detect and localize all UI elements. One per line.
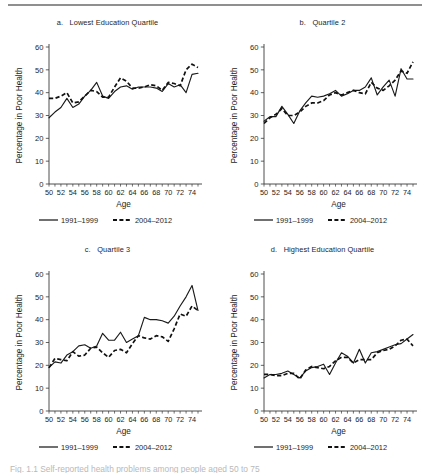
chart-svg-a: 010203040506050525456586062646668707274A… xyxy=(0,8,215,235)
legend-label-1: 1991–1999 xyxy=(61,216,98,225)
x-tick-label: 62 xyxy=(116,188,124,197)
chart-panel-d: d. Highest Education Quartile 0102030405… xyxy=(215,235,430,462)
legend-label-1: 1991–1999 xyxy=(276,216,313,225)
x-tick-label: 68 xyxy=(367,188,375,197)
x-tick-label: 68 xyxy=(367,415,375,424)
x-tick-label: 50 xyxy=(260,415,268,424)
x-tick-label: 58 xyxy=(308,188,316,197)
y-axis-title: Percentage in Poor Health xyxy=(230,294,239,390)
figure-caption: Fig. 1.1 Self-reported health problems a… xyxy=(10,464,422,473)
x-tick-label: 60 xyxy=(320,188,328,197)
x-tick-label: 58 xyxy=(93,188,101,197)
x-tick-label: 70 xyxy=(164,188,172,197)
x-tick-label: 54 xyxy=(284,415,292,424)
x-axis-title: Age xyxy=(331,200,346,209)
x-tick-label: 64 xyxy=(343,415,351,424)
x-tick-label: 68 xyxy=(152,415,160,424)
chart-svg-c: 010203040506050525456586062646668707274A… xyxy=(0,235,215,462)
x-tick-label: 62 xyxy=(116,415,124,424)
x-axis-title: Age xyxy=(331,427,346,436)
panel-grid: a. Lowest Education Quartile 01020304050… xyxy=(0,8,430,463)
y-tick-label: 0 xyxy=(39,407,43,416)
x-tick-label: 60 xyxy=(105,188,113,197)
x-tick-label: 66 xyxy=(140,415,148,424)
chart-svg-b: 010203040506050525456586062646668707274A… xyxy=(215,8,430,235)
x-tick-label: 54 xyxy=(69,188,77,197)
chart-panel-c: c. Quartile 3 01020304050605052545658606… xyxy=(0,235,215,462)
x-tick-label: 58 xyxy=(93,415,101,424)
x-tick-label: 56 xyxy=(296,188,304,197)
x-tick-label: 62 xyxy=(331,415,339,424)
x-tick-label: 50 xyxy=(45,415,53,424)
x-tick-label: 66 xyxy=(355,415,363,424)
legend-label-2: 2004–2012 xyxy=(350,216,387,225)
x-tick-label: 62 xyxy=(331,188,339,197)
x-tick-label: 60 xyxy=(105,415,113,424)
y-tick-label: 40 xyxy=(250,315,258,324)
x-tick-label: 50 xyxy=(45,188,53,197)
x-tick-label: 74 xyxy=(403,188,411,197)
header-rule xyxy=(8,4,422,6)
y-axis-title: Percentage in Poor Health xyxy=(15,67,24,163)
x-tick-label: 52 xyxy=(57,188,65,197)
y-tick-label: 10 xyxy=(35,157,43,166)
x-tick-label: 74 xyxy=(403,415,411,424)
x-tick-label: 52 xyxy=(272,188,280,197)
x-tick-label: 56 xyxy=(296,415,304,424)
y-tick-label: 30 xyxy=(35,111,43,120)
y-axis-title: Percentage in Poor Health xyxy=(230,67,239,163)
y-tick-label: 50 xyxy=(250,66,258,75)
y-tick-label: 0 xyxy=(254,407,258,416)
y-tick-label: 30 xyxy=(35,338,43,347)
y-tick-label: 20 xyxy=(250,134,258,143)
series-line-1 xyxy=(264,69,413,124)
y-tick-label: 60 xyxy=(250,43,258,52)
legend-label-2: 2004–2012 xyxy=(135,216,172,225)
y-tick-label: 10 xyxy=(250,157,258,166)
x-tick-label: 56 xyxy=(81,188,89,197)
y-tick-label: 60 xyxy=(35,270,43,279)
x-tick-label: 54 xyxy=(284,188,292,197)
x-tick-label: 66 xyxy=(355,188,363,197)
x-tick-label: 74 xyxy=(188,188,196,197)
x-tick-label: 56 xyxy=(81,415,89,424)
x-tick-label: 66 xyxy=(140,188,148,197)
y-axis-title: Percentage in Poor Health xyxy=(15,294,24,390)
y-tick-label: 60 xyxy=(250,270,258,279)
x-tick-label: 54 xyxy=(69,415,77,424)
x-tick-label: 52 xyxy=(57,415,65,424)
series-line-2 xyxy=(49,64,198,103)
chart-panel-a: a. Lowest Education Quartile 01020304050… xyxy=(0,8,215,235)
chart-panel-b: b. Quartile 2 01020304050605052545658606… xyxy=(215,8,430,235)
y-tick-label: 40 xyxy=(35,315,43,324)
chart-svg-d: 010203040506050525456586062646668707274A… xyxy=(215,235,430,462)
y-tick-label: 20 xyxy=(35,134,43,143)
figure-page: a. Lowest Education Quartile 01020304050… xyxy=(0,0,430,473)
x-axis-title: Age xyxy=(116,427,131,436)
y-tick-label: 50 xyxy=(35,293,43,302)
y-tick-label: 40 xyxy=(250,88,258,97)
y-tick-label: 10 xyxy=(35,384,43,393)
x-tick-label: 70 xyxy=(164,415,172,424)
y-tick-label: 0 xyxy=(39,180,43,189)
x-tick-label: 72 xyxy=(176,415,184,424)
x-tick-label: 74 xyxy=(188,415,196,424)
y-tick-label: 50 xyxy=(35,66,43,75)
series-line-1 xyxy=(264,335,413,378)
x-tick-label: 64 xyxy=(128,188,136,197)
y-tick-label: 30 xyxy=(250,338,258,347)
legend-label-1: 1991–1999 xyxy=(61,443,98,452)
legend-label-2: 2004–2012 xyxy=(350,443,387,452)
x-axis-title: Age xyxy=(116,200,131,209)
y-tick-label: 20 xyxy=(250,361,258,370)
x-tick-label: 52 xyxy=(272,415,280,424)
x-tick-label: 72 xyxy=(391,188,399,197)
x-tick-label: 72 xyxy=(391,415,399,424)
y-tick-label: 10 xyxy=(250,384,258,393)
y-tick-label: 50 xyxy=(250,293,258,302)
x-tick-label: 50 xyxy=(260,188,268,197)
x-tick-label: 64 xyxy=(128,415,136,424)
y-tick-label: 30 xyxy=(250,111,258,120)
y-tick-label: 40 xyxy=(35,88,43,97)
x-tick-label: 70 xyxy=(379,188,387,197)
